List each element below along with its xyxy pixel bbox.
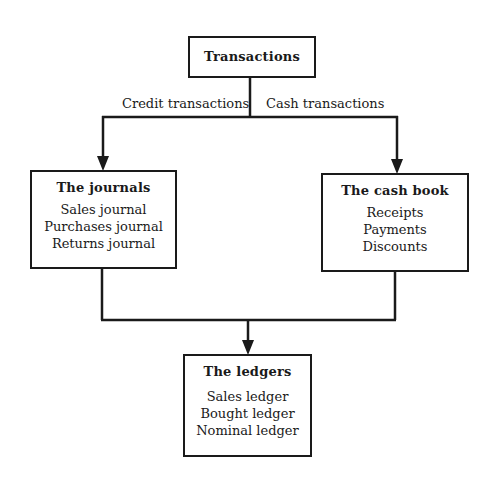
list-item: Purchases journal (32, 218, 175, 235)
list-item: Sales ledger (185, 388, 310, 405)
arrow-down-icon (242, 340, 254, 355)
credit-transactions-label: Credit transactions (122, 96, 249, 111)
node-title: The journals (32, 180, 175, 195)
list-item: Discounts (323, 238, 467, 255)
ledgers-node: The ledgers Sales ledger Bought ledger N… (183, 354, 312, 457)
list-item: Bought ledger (185, 405, 310, 422)
list-item: Nominal ledger (185, 422, 310, 439)
list-item: Payments (323, 221, 467, 238)
list-item: Sales journal (32, 201, 175, 218)
list-item: Receipts (323, 204, 467, 221)
journals-node: The journals Sales journal Purchases jou… (30, 170, 177, 269)
transactions-node: Transactions (188, 36, 316, 78)
arrow-down-icon (97, 156, 109, 171)
arrow-down-icon (391, 159, 403, 174)
node-title: Transactions (190, 49, 314, 64)
list-item: Returns journal (32, 235, 175, 252)
node-title: The cash book (323, 183, 467, 198)
cash-book-node: The cash book Receipts Payments Discount… (321, 173, 469, 272)
node-title: The ledgers (185, 364, 310, 379)
cash-transactions-label: Cash transactions (266, 96, 384, 111)
